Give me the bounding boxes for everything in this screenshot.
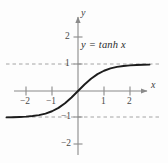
y-tick-label-minus-1: −1 — [61, 112, 71, 122]
y-tick-label-minus-2: −2 — [61, 139, 71, 149]
x-tick-label-1: 1 — [101, 97, 106, 107]
x-tick-label-2: 2 — [127, 97, 132, 107]
x-tick-label-minus-2: −2 — [20, 97, 30, 107]
y-tick-label-1: 1 — [65, 59, 70, 69]
plot-canvas — [0, 0, 168, 163]
y-tick-label-2: 2 — [65, 32, 70, 42]
tanh-graph-figure: −2 −1 1 2 2 1 −1 −2 x y y = tanh x — [0, 0, 168, 163]
x-axis-label: x — [151, 80, 155, 90]
x-tick-label-minus-1: −1 — [46, 97, 56, 107]
curve-equation-label: y = tanh x — [81, 40, 126, 51]
y-axis-label: y — [81, 8, 85, 18]
